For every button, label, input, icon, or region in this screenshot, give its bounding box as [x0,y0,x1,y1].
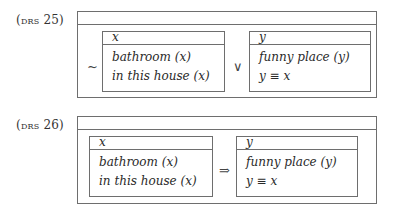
drs-26-right-box: y funny place (y) y ≡ x [236,136,358,197]
drs-26-left-universe: x [90,137,212,150]
condition: in this house (x) [99,174,197,188]
condition: bathroom (x) [112,50,191,64]
drs-26-universe-divider [78,129,376,130]
drs-25-universe-divider [78,24,376,25]
disjunction-operator: ∨ [233,59,243,74]
condition: y ≡ x [259,69,290,83]
drs-25-left-box: x bathroom (x) in this house (x) [102,31,225,92]
drs-26-right-universe: y [237,137,357,150]
condition: in this house (x) [112,69,210,83]
condition: y ≡ x [246,174,277,188]
drs-26-left-box: x bathroom (x) in this house (x) [89,136,213,197]
drs-26-label: (drs 26) [16,118,64,132]
referent: x [112,30,119,44]
drs-26-outer-box: x bathroom (x) in this house (x) ⇒ y fun… [77,116,377,204]
condition: funny place (y) [246,155,337,169]
drs-25-left-universe: x [103,32,224,45]
drs-25-right-box: y funny place (y) y ≡ x [249,31,371,92]
drs-25-label: (drs 25) [16,13,64,27]
referent: y [259,30,266,44]
referent: y [246,135,253,149]
condition: funny place (y) [259,50,350,64]
drs-25-outer-box: ~ x bathroom (x) in this house (x) ∨ y f… [77,11,377,98]
condition: bathroom (x) [99,155,178,169]
implication-operator: ⇒ [219,163,230,178]
drs-25-right-universe: y [250,32,370,45]
referent: x [99,135,106,149]
negation-operator: ~ [87,59,98,74]
